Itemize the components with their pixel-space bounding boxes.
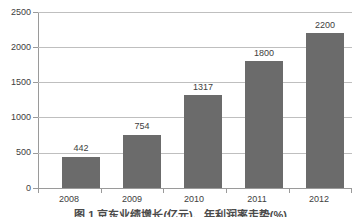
x-tick-mark-3 [226, 189, 227, 193]
x-tick-mark-5 [351, 189, 352, 193]
bar-2010[interactable] [184, 95, 222, 188]
y-axis-labels: 2500 2000 1500 1000 500 0 [0, 0, 31, 217]
bar-group-2008[interactable]: 442 [62, 12, 100, 188]
bar-2011[interactable] [245, 61, 283, 188]
bar-value-label-2012: 2200 [290, 21, 360, 30]
y-tick-label-500: 500 [1, 148, 31, 157]
y-tick-label-0: 0 [1, 184, 31, 193]
x-tick-label-2011: 2011 [232, 195, 282, 204]
x-tick-label-2008: 2008 [44, 195, 94, 204]
x-tick-label-2010: 2010 [169, 195, 219, 204]
y-tick-label-1500: 1500 [1, 78, 31, 87]
bar-value-label-2009: 754 [107, 122, 177, 131]
bar-2008[interactable] [62, 157, 100, 188]
plot-area: 442 754 1317 1800 2200 [38, 12, 352, 188]
gridline-0 [38, 188, 352, 189]
bar-value-label-2010: 1317 [168, 83, 238, 92]
bar-group-2012[interactable]: 2200 [306, 12, 344, 188]
figure-caption: 图 1 京东业绩增长(亿元)、年利润率走势(%) [0, 209, 361, 217]
y-tick-label-2500: 2500 [1, 8, 31, 17]
x-tick-label-2009: 2009 [107, 195, 157, 204]
y-tick-label-1000: 1000 [1, 113, 31, 122]
x-tick-mark-2 [163, 189, 164, 193]
bar-value-label-2008: 442 [46, 144, 116, 153]
bar-value-label-2011: 1800 [229, 49, 299, 58]
x-tick-mark-0 [38, 189, 39, 193]
y-tick-label-2000: 2000 [1, 43, 31, 52]
bar-2009[interactable] [123, 135, 161, 188]
bar-2012[interactable] [306, 33, 344, 188]
bar-chart-figure: 2500 2000 1500 1000 500 0 442 754 1 [0, 0, 361, 217]
x-tick-mark-4 [289, 189, 290, 193]
bar-group-2009[interactable]: 754 [123, 12, 161, 188]
x-tick-mark-1 [101, 189, 102, 193]
bar-group-2011[interactable]: 1800 [245, 12, 283, 188]
bar-group-2010[interactable]: 1317 [184, 12, 222, 188]
x-tick-label-2012: 2012 [294, 195, 344, 204]
